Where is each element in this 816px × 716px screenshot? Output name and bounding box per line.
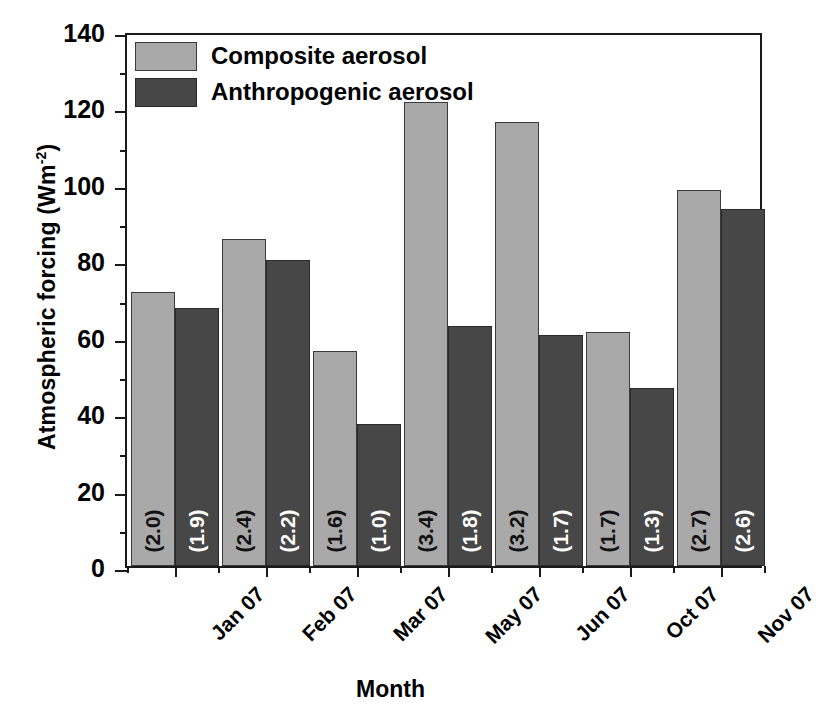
legend-swatch-composite — [135, 42, 197, 71]
y-tick-minor-30 — [120, 455, 127, 457]
bar-value-label: (2.7) — [687, 509, 711, 552]
bar-value-label: (1.7) — [596, 509, 620, 552]
y-tick-label-80: 80 — [77, 248, 105, 277]
bar-anthropogenic-jan-07[interactable]: (1.9) — [175, 308, 219, 566]
legend-swatch-anthropogenic — [135, 78, 197, 107]
bar-composite-jun-07[interactable]: (3.2) — [495, 122, 539, 566]
x-tick-mar-07 — [357, 566, 359, 577]
x-tick-label-may-07: May 07 — [481, 582, 548, 649]
x-axis-title: Month — [0, 676, 781, 703]
bar-value-label: (3.2) — [505, 509, 529, 552]
legend: Composite aerosol Anthropogenic aerosol — [135, 39, 474, 111]
x-tick-label-mar-07: Mar 07 — [388, 582, 452, 646]
y-tick-40 — [115, 417, 127, 419]
x-tick-label-feb-07: Feb 07 — [297, 582, 361, 646]
bar-value-label: (1.6) — [323, 509, 347, 552]
y-tick-label-60: 60 — [77, 324, 105, 353]
bar-anthropogenic-feb-07[interactable]: (2.2) — [266, 260, 310, 566]
bar-value-label: (3.4) — [414, 509, 438, 552]
bar-anthropogenic-mar-07[interactable]: (1.0) — [357, 424, 401, 566]
y-tick-label-20: 20 — [77, 477, 105, 506]
x-tick-oct-07 — [630, 566, 632, 577]
y-tick-label-0: 0 — [91, 554, 105, 583]
bar-value-label: (1.0) — [367, 509, 391, 552]
bar-composite-jan-07[interactable]: (2.0) — [131, 292, 175, 566]
bar-value-label: (1.8) — [458, 509, 482, 552]
x-tick-minor-1 — [218, 566, 220, 573]
bar-anthropogenic-nov-07[interactable]: (2.6) — [721, 209, 765, 566]
legend-item-anthropogenic: Anthropogenic aerosol — [135, 75, 474, 109]
y-tick-minor-50 — [120, 379, 127, 381]
x-tick-jun-07 — [539, 566, 541, 577]
bar-value-label: (1.7) — [549, 509, 573, 552]
y-tick-minor-90 — [120, 226, 127, 228]
x-tick-feb-07 — [266, 566, 268, 577]
x-tick-minor-5 — [582, 566, 584, 573]
y-tick-minor-10 — [120, 532, 127, 534]
bar-composite-oct-07[interactable]: (1.7) — [586, 332, 630, 566]
y-tick-minor-130 — [120, 73, 127, 75]
y-tick-120 — [115, 111, 127, 113]
x-tick-may-07 — [448, 566, 450, 577]
x-tick-nov-07 — [721, 566, 723, 577]
y-axis-title: Atmospheric forcing (Wm-2) — [33, 57, 61, 537]
y-tick-20 — [115, 494, 127, 496]
y-axis-title-text: Atmospheric forcing (Wm — [34, 164, 60, 450]
x-tick-minor-0 — [127, 566, 129, 573]
x-tick-minor-6 — [673, 566, 675, 573]
x-tick-minor-2 — [309, 566, 311, 573]
bar-anthropogenic-may-07[interactable]: (1.8) — [448, 326, 492, 566]
bar-composite-may-07[interactable]: (3.4) — [404, 102, 448, 566]
y-tick-80 — [115, 264, 127, 266]
y-axis-title-exponent: -2 — [33, 151, 49, 164]
x-tick-minor-3 — [400, 566, 402, 573]
y-tick-label-140: 140 — [63, 19, 105, 48]
bar-composite-feb-07[interactable]: (2.4) — [222, 239, 266, 566]
y-tick-label-120: 120 — [63, 95, 105, 124]
bar-anthropogenic-oct-07[interactable]: (1.3) — [630, 388, 674, 566]
y-tick-minor-110 — [120, 150, 127, 152]
bar-anthropogenic-jun-07[interactable]: (1.7) — [539, 335, 583, 566]
plot-area: (2.0)(1.9)(2.4)(2.2)(1.6)(1.0)(3.4)(1.8)… — [125, 33, 762, 568]
x-tick-minor-4 — [491, 566, 493, 573]
legend-label-anthropogenic: Anthropogenic aerosol — [211, 78, 474, 106]
x-tick-label-nov-07: Nov 07 — [753, 582, 816, 648]
x-tick-label-jan-07: Jan 07 — [206, 582, 269, 645]
x-tick-label-oct-07: Oct 07 — [661, 582, 723, 644]
bar-value-label: (1.9) — [185, 509, 209, 552]
bar-value-label: (2.4) — [232, 509, 256, 552]
y-tick-60 — [115, 341, 127, 343]
bar-value-label: (1.3) — [640, 509, 664, 552]
y-tick-140 — [115, 35, 127, 37]
y-tick-100 — [115, 188, 127, 190]
y-tick-label-40: 40 — [77, 401, 105, 430]
bar-value-label: (2.2) — [276, 509, 300, 552]
bar-composite-mar-07[interactable]: (1.6) — [313, 351, 357, 566]
legend-item-composite: Composite aerosol — [135, 39, 474, 73]
y-tick-0 — [115, 570, 127, 572]
bar-value-label: (2.6) — [731, 509, 755, 552]
x-tick-minor-end — [764, 566, 766, 573]
bar-composite-nov-07[interactable]: (2.7) — [677, 190, 721, 566]
x-tick-jan-07 — [175, 566, 177, 577]
bar-value-label: (2.0) — [141, 509, 165, 552]
y-tick-label-100: 100 — [63, 171, 105, 200]
y-tick-minor-70 — [120, 303, 127, 305]
x-tick-label-jun-07: Jun 07 — [570, 582, 634, 646]
y-axis-title-paren: ) — [34, 144, 60, 152]
legend-label-composite: Composite aerosol — [211, 42, 427, 70]
